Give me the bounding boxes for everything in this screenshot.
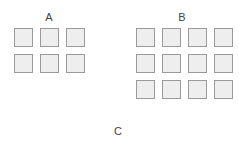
group-a-label: A <box>45 12 52 23</box>
group-b-box <box>188 54 207 73</box>
group-b-label: B <box>178 12 185 23</box>
footer-label-c: C <box>114 126 122 137</box>
group-a-box <box>66 28 85 47</box>
group-a-box <box>14 54 33 73</box>
group-b-box <box>162 54 181 73</box>
group-b-box <box>214 54 233 73</box>
group-b-box <box>136 28 155 47</box>
group-b-box <box>188 28 207 47</box>
group-b-box <box>214 80 233 99</box>
group-a-grid <box>14 28 85 73</box>
group-b-box <box>136 54 155 73</box>
group-b-box <box>214 28 233 47</box>
group-b-box <box>162 28 181 47</box>
group-b-box <box>188 80 207 99</box>
group-a-box <box>40 28 59 47</box>
group-b-grid <box>136 28 233 99</box>
group-b-box <box>136 80 155 99</box>
group-a-box <box>66 54 85 73</box>
group-b-box <box>162 80 181 99</box>
group-a-box <box>14 28 33 47</box>
group-a-box <box>40 54 59 73</box>
